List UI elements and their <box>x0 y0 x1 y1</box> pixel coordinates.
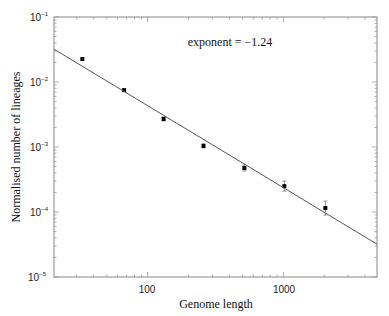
y-tick-label: 10−1 <box>30 11 49 23</box>
data-point <box>242 166 246 170</box>
data-point <box>80 57 84 61</box>
y-tick-label: 10−2 <box>30 76 49 88</box>
y-tick-label: 10−3 <box>30 141 49 153</box>
x-tick-label: 1000 <box>273 284 296 295</box>
y-tick-label: 10−4 <box>30 206 49 218</box>
series-layer <box>54 49 377 244</box>
x-axis-label: Genome length <box>179 297 253 311</box>
y-tick-label: 10−5 <box>28 271 47 283</box>
x-tick-labels: 100 1000 <box>139 284 296 295</box>
exponent-annotation: exponent = −1.24 <box>188 35 273 49</box>
data-point <box>202 144 206 148</box>
x-tick-label: 100 <box>139 284 156 295</box>
y-axis-label: Normalised number of lineages <box>9 71 23 222</box>
data-point <box>323 206 327 210</box>
y-tick-labels: 10−1 10−2 10−3 10−4 10−5 <box>28 11 49 283</box>
chart: 10−1 10−2 10−3 10−4 10−5 100 1000 Genome… <box>0 0 389 316</box>
data-point <box>162 117 166 121</box>
fit-line <box>54 49 377 244</box>
